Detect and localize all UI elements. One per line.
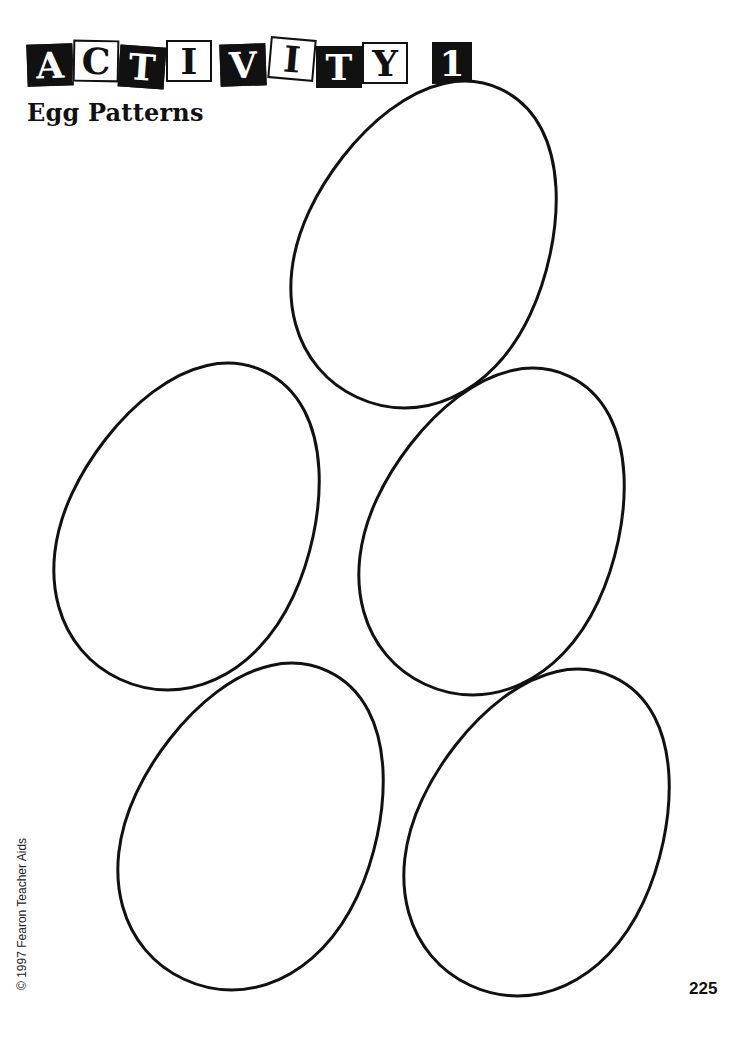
page-number: 225 [689,979,717,999]
egg-outline-5 [359,626,724,1037]
copyright-notice: © 1997 Fearon Teacher Aids [15,838,29,990]
worksheet-page: A C T I V I T Y 1 Egg Patterns [0,0,742,1041]
egg-patterns [0,0,742,1041]
